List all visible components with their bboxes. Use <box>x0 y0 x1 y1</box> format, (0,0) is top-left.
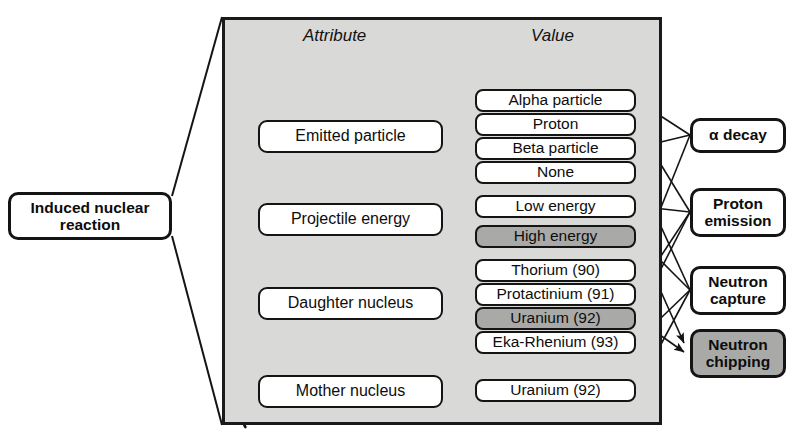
result-label-line2: emission <box>704 213 771 229</box>
result-alpha-decay[interactable]: α decay <box>690 118 786 153</box>
result-neutron-chipping[interactable]: Neutron chipping <box>690 329 786 378</box>
root-node[interactable]: Induced nuclear reaction <box>8 192 172 240</box>
attribute-daughter-nucleus[interactable]: Daughter nucleus <box>258 287 443 320</box>
result-label-line1: Proton <box>713 196 763 212</box>
value-label: Eka-Rhenium (93) <box>493 334 619 350</box>
value-uranium-92-mother[interactable]: Uranium (92) <box>475 379 636 402</box>
root-to-panel-top <box>172 17 222 196</box>
value-none[interactable]: None <box>475 161 636 184</box>
value-label: Low energy <box>515 198 595 214</box>
result-proton-emission[interactable]: Proton emission <box>690 188 786 237</box>
root-to-panel-bottom <box>172 236 222 425</box>
result-label-line1: α decay <box>709 127 767 143</box>
attribute-mother-nucleus[interactable]: Mother nucleus <box>258 375 443 408</box>
value-label: Alpha particle <box>509 92 603 108</box>
value-label: Beta particle <box>512 140 598 156</box>
attribute-label: Emitted particle <box>295 128 405 145</box>
diagram-canvas: Induced nuclear reaction Attribute Value… <box>0 0 805 437</box>
attribute-label: Mother nucleus <box>296 383 405 400</box>
value-thorium-90[interactable]: Thorium (90) <box>475 259 636 282</box>
result-label-line1: Neutron <box>708 337 767 353</box>
value-high-energy[interactable]: High energy <box>475 225 636 248</box>
value-label: Proton <box>533 116 579 132</box>
result-neutron-capture[interactable]: Neutron capture <box>690 266 786 315</box>
value-protactinium-91[interactable]: Protactinium (91) <box>475 283 636 306</box>
value-low-energy[interactable]: Low energy <box>475 195 636 218</box>
attribute-label: Daughter nucleus <box>288 295 413 312</box>
value-beta-particle[interactable]: Beta particle <box>475 137 636 160</box>
value-label: Protactinium (91) <box>496 286 614 302</box>
value-label: Uranium (92) <box>510 382 600 398</box>
value-label: High energy <box>514 228 598 244</box>
value-alpha-particle[interactable]: Alpha particle <box>475 89 636 112</box>
value-label: Thorium (90) <box>511 262 600 278</box>
root-label-line1: Induced nuclear <box>31 199 150 216</box>
result-label-line1: Neutron <box>708 274 767 290</box>
value-label: None <box>537 164 574 180</box>
result-label-line2: chipping <box>706 354 771 370</box>
value-eka-rhenium-93[interactable]: Eka-Rhenium (93) <box>475 331 636 354</box>
attribute-label: Projectile energy <box>291 211 410 228</box>
root-label-line2: reaction <box>60 216 120 233</box>
attribute-emitted-particle[interactable]: Emitted particle <box>258 120 443 153</box>
attribute-column-header: Attribute <box>303 26 366 46</box>
result-label-line2: capture <box>710 291 766 307</box>
value-column-header: Value <box>531 26 574 46</box>
attribute-projectile-energy[interactable]: Projectile energy <box>258 203 443 236</box>
value-uranium-92-daughter[interactable]: Uranium (92) <box>475 307 636 330</box>
value-proton[interactable]: Proton <box>475 113 636 136</box>
value-label: Uranium (92) <box>510 310 600 326</box>
